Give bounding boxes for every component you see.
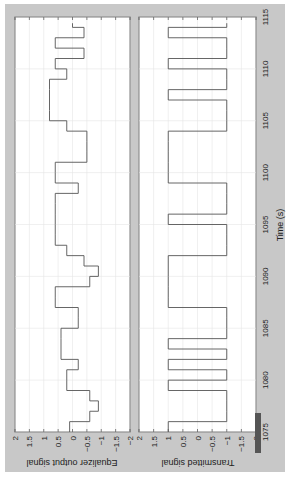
value-tick-label: −0.5	[208, 435, 217, 451]
value-tick-label: −1.5	[237, 435, 246, 451]
time-tick-label: 1080	[261, 371, 270, 389]
time-xlabel: Time (s)	[275, 209, 285, 242]
time-tick-label: 1110	[261, 60, 270, 77]
transmitted-signal-axes: 21.510.50−0.5−1−1.5−2	[135, 17, 261, 452]
time-tick-label: 1075	[261, 423, 270, 441]
time-tick-label: 1115	[261, 8, 270, 25]
time-tick-label: 1090	[261, 267, 270, 285]
value-tick-label: −1	[223, 435, 232, 445]
time-tick-label: 1085	[261, 319, 270, 337]
value-tick-label: −1.5	[112, 435, 121, 451]
value-tick-label: 1	[40, 435, 49, 440]
value-tick-label: 2	[135, 435, 144, 440]
value-tick-label: 0.5	[179, 435, 188, 447]
value-tick-label: 1.5	[25, 435, 34, 447]
value-tick-label: 0	[69, 435, 78, 440]
equalizer-output-axes: 21.510.50−0.5−1−1.5−2	[11, 17, 135, 452]
axis-scrollbar[interactable]	[255, 413, 261, 453]
value-tick-label: −1	[97, 435, 106, 445]
transmitted-ylabel: Transmitted signal	[161, 458, 234, 468]
time-tick-label: 1095	[261, 215, 270, 233]
time-tick-label: 1105	[261, 112, 270, 130]
value-tick-label: 1.5	[150, 435, 159, 447]
value-tick-label: 0.5	[54, 435, 63, 447]
equalizer-ylabel: Equalizer output signal	[26, 458, 117, 468]
value-tick-label: 1	[164, 435, 173, 440]
figure-canvas: 21.510.50−0.5−1−1.5−2 21.510.50−0.5−1−1.…	[0, 0, 290, 479]
value-tick-label: −2	[126, 435, 135, 445]
time-tick-label: 1100	[261, 163, 270, 181]
value-tick-label: 0	[194, 435, 203, 440]
value-tick-label: −0.5	[83, 435, 92, 451]
time-axis: 107510801085109010951100110511101115	[261, 8, 270, 441]
value-tick-label: 2	[11, 435, 20, 440]
